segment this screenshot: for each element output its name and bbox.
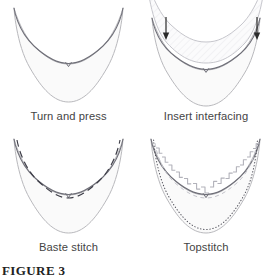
caption-turn-and-press: Turn and press bbox=[0, 110, 137, 122]
caption-topstitch: Topstitch bbox=[137, 241, 275, 253]
collar-diagram-topstitch bbox=[137, 131, 275, 253]
collar-body bbox=[151, 139, 260, 233]
panel-grid: Turn and press bbox=[0, 0, 275, 276]
panel-topstitch: Topstitch bbox=[137, 131, 275, 276]
caption-insert-interfacing: Insert interfacing bbox=[137, 110, 275, 122]
panel-turn-and-press: Turn and press bbox=[0, 0, 137, 131]
figure-label: FIGURE 3 bbox=[2, 263, 66, 276]
panel-baste-stitch: Baste stitch bbox=[0, 131, 137, 276]
figure-root: Turn and press bbox=[0, 0, 275, 276]
collar-body bbox=[14, 139, 123, 233]
collar-diagram-baste-stitch bbox=[0, 131, 137, 253]
caption-baste-stitch: Baste stitch bbox=[0, 241, 137, 253]
collar-body bbox=[14, 8, 123, 102]
panel-insert-interfacing: Insert interfacing bbox=[137, 0, 275, 131]
